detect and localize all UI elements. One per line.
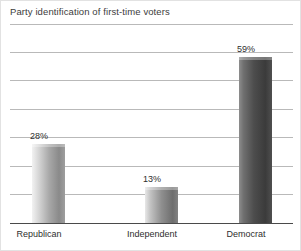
bar-independent[interactable]: [145, 187, 178, 224]
bar-group-independent: [145, 23, 178, 224]
bar-republican[interactable]: [32, 144, 65, 224]
bar-bevel: [239, 57, 272, 60]
category-label-republican: Republican: [0, 229, 94, 239]
bar-democrat[interactable]: [239, 57, 272, 224]
bar-bevel: [32, 144, 65, 147]
chart-title: Party identification of first-time voter…: [10, 6, 170, 17]
x-axis-line: [10, 223, 293, 224]
bar-value-independent: 13%: [122, 174, 182, 184]
bar-value-republican: 28%: [9, 131, 69, 141]
bar-group-republican: [32, 23, 65, 224]
chart-screenshot: Party identification of first-time voter…: [0, 0, 301, 251]
category-label-democrat: Democrat: [191, 229, 301, 239]
bar-value-democrat: 59%: [216, 44, 276, 54]
bar-bevel: [145, 187, 178, 190]
